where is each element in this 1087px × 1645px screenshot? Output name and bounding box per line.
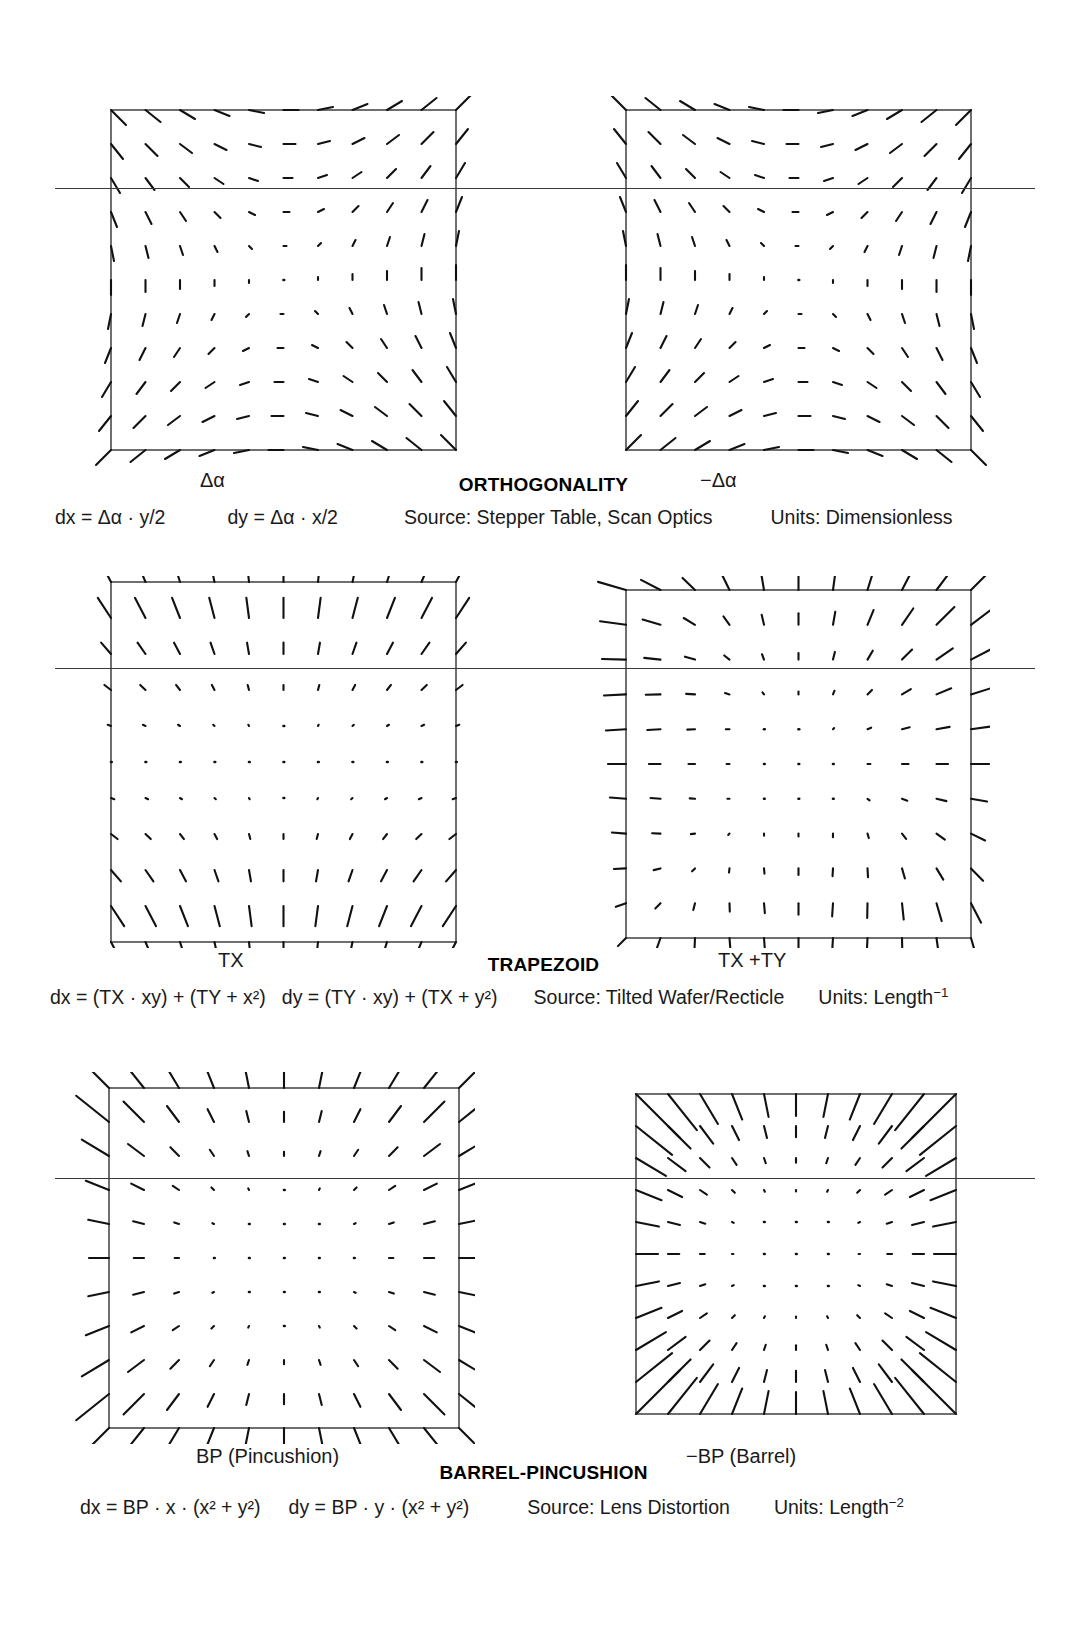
vector-arrow (729, 868, 730, 872)
plot-bp-pincushion (75, 1072, 475, 1444)
vector-arrow (215, 798, 216, 799)
vector-arrow (764, 379, 773, 382)
vector-arrow (874, 1094, 892, 1124)
vector-arrow (111, 834, 118, 839)
vector-arrow (668, 1190, 682, 1197)
vector-arrow (730, 444, 745, 450)
vector-group (636, 1094, 956, 1414)
vector-arrow (318, 243, 321, 246)
vector-arrow (317, 798, 318, 799)
vector-arrow (101, 643, 111, 654)
vector-arrow (387, 685, 391, 690)
vector-arrow (692, 237, 695, 246)
vector-arrow (700, 1094, 718, 1124)
vector-arrow (215, 906, 220, 926)
quiver-svg (75, 96, 475, 468)
vector-arrow (131, 1184, 144, 1190)
vector-arrow (752, 141, 764, 144)
vector-arrow (444, 401, 456, 416)
vector-arrow (833, 416, 845, 419)
vector-arrow (248, 1326, 249, 1328)
vector-arrow (761, 576, 764, 590)
vector-arrow (683, 135, 695, 144)
vector-arrow (732, 1315, 735, 1318)
vector-arrow (132, 576, 145, 582)
vector-arrow (857, 1190, 860, 1193)
vector-arrow (249, 178, 258, 181)
vector-arrow (208, 1394, 214, 1407)
vector-arrow (354, 1150, 358, 1156)
vector-arrow (636, 1353, 672, 1382)
vector-arrow (212, 314, 215, 320)
vector-arrow (600, 621, 626, 625)
vector-arrow (824, 178, 833, 181)
vector-arrow (170, 1360, 179, 1369)
plot-bp-barrel (590, 1072, 990, 1444)
vector-arrow (646, 98, 661, 110)
vector-arrow (86, 1326, 109, 1335)
plot-trapezoid-tx (75, 576, 475, 948)
vector-arrow (647, 729, 660, 730)
vector-arrow (389, 1326, 395, 1330)
vector-arrow (971, 834, 985, 841)
vector-arrow (636, 1126, 672, 1155)
formula-dx: dx = (TX · xy) + (TY + x²) (50, 986, 266, 1009)
vector-arrow (82, 1360, 109, 1376)
vector-arrow (721, 172, 730, 178)
vector-arrow (414, 870, 422, 881)
vector-arrow (825, 1126, 828, 1138)
vector-arrow (424, 1102, 444, 1122)
vector-arrow (416, 336, 422, 348)
vector-arrow (912, 1222, 924, 1225)
vector-arrow (128, 1360, 144, 1372)
vector-arrow (378, 373, 387, 382)
vector-arrow (354, 1394, 360, 1407)
vector-arrow (684, 618, 695, 625)
vector-arrow (443, 906, 456, 926)
vector-arrow (937, 416, 949, 428)
vector-arrow (723, 576, 730, 590)
vector-arrow (727, 240, 730, 246)
vector-arrow (353, 725, 354, 726)
vector-arrow (971, 450, 986, 465)
vector-arrow (620, 197, 626, 212)
vector-arrow (895, 1094, 924, 1130)
formula-units: Units: Length−1 (818, 986, 948, 1009)
vector-arrow (693, 903, 695, 910)
vector-arrow (937, 688, 952, 694)
vector-arrow (902, 868, 905, 878)
vector-arrow (937, 348, 943, 360)
vector-arrow (833, 612, 835, 625)
vector-arrow (76, 1394, 109, 1420)
vector-arrow (178, 725, 180, 726)
vector-arrow (209, 598, 214, 618)
vector-arrow (971, 647, 990, 659)
vector-arrow (868, 610, 874, 625)
vector-arrow (823, 1391, 828, 1414)
vector-arrow (174, 1292, 179, 1294)
vector-arrow (933, 1281, 956, 1286)
formula-row: dx = Δα · y/2 dy = Δα · x/2 Source: Step… (0, 506, 1087, 548)
vector-arrow (895, 1378, 924, 1414)
vector-group (611, 96, 986, 465)
vector-arrow (306, 413, 318, 416)
vector-arrow (353, 240, 356, 246)
vector-group (96, 96, 471, 465)
vector-arrow (422, 685, 427, 690)
vector-arrow (354, 1292, 356, 1293)
vector-arrow (764, 1094, 769, 1117)
vector-arrow (389, 1072, 405, 1088)
vector-arrow (387, 169, 396, 178)
vector-arrow (937, 450, 952, 462)
vector-arrow (668, 1158, 686, 1171)
vector-arrow (695, 441, 710, 450)
vector-arrow (868, 450, 883, 456)
vector-arrow (902, 450, 917, 459)
vector-arrow (614, 868, 626, 869)
vector-arrow (922, 110, 937, 122)
vector-arrow (215, 110, 230, 116)
section-title: TRAPEZOID (0, 954, 1087, 976)
vector-arrow (215, 246, 218, 252)
vector-arrow (387, 203, 393, 212)
vector-arrow (902, 416, 914, 425)
